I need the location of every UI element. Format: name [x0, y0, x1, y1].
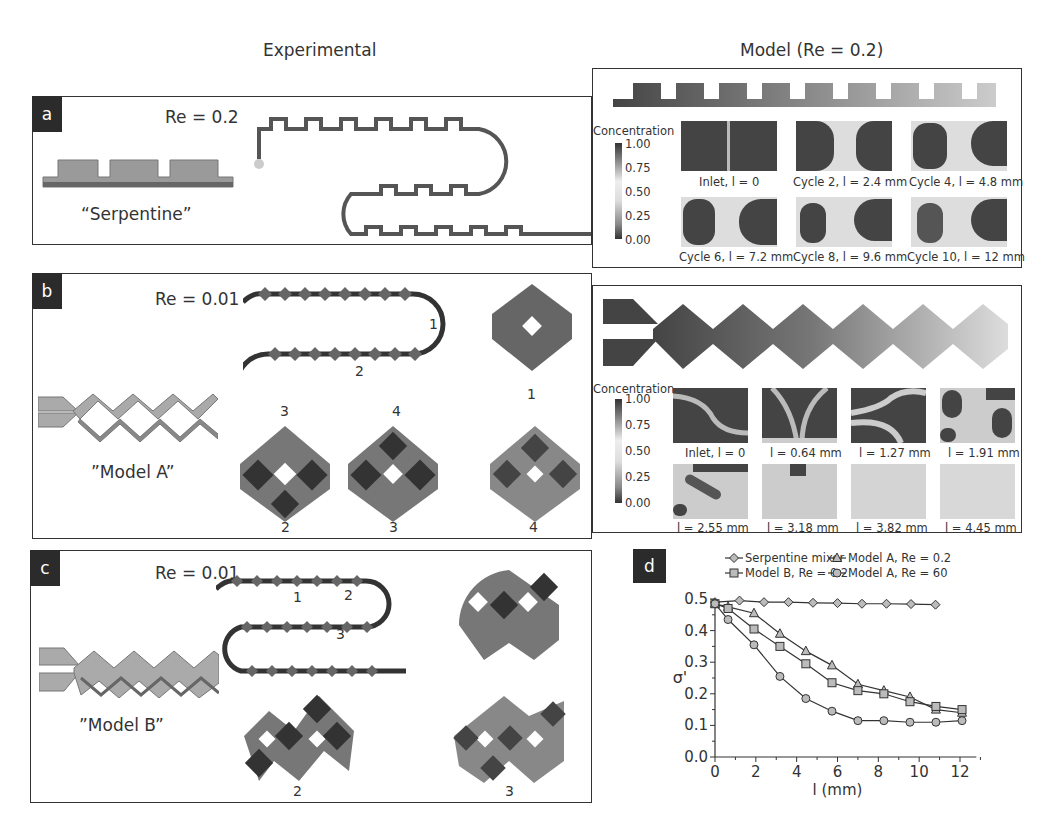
channel-mark: 1 [429, 316, 438, 332]
svg-text:10: 10 [910, 763, 929, 781]
colorbar-tick: 0.00 [625, 496, 651, 510]
channel-mark: 3 [280, 403, 289, 419]
chart-legend: Serpentine mixerModel A, Re = 0.2Model B… [725, 551, 951, 580]
concentration-thumbnail [673, 388, 748, 443]
cross-section-label: 1 [527, 386, 536, 402]
concentration-thumbnail [940, 388, 1015, 443]
thumbnail-caption: l = 0.64 mm [770, 446, 842, 460]
thumbnail-caption: l = 1.27 mm [859, 446, 931, 460]
cross-section-label: 2 [293, 783, 302, 799]
cross-section-label: 4 [529, 519, 538, 535]
concentration-thumbnail [681, 197, 777, 247]
colorbar-tick: 0.25 [625, 209, 651, 223]
panel-c-experimental: c Re = 0.01 ”Model B” 1 2 3 2 [30, 550, 592, 803]
thumbnail-caption: Cycle 8, l = 9.6 mm [793, 250, 907, 264]
panel-b-model-name: ”Model A” [91, 462, 175, 482]
cross-section-label: 3 [505, 783, 514, 799]
chart-axes: 0246810120.00.10.20.30.40.5l (mm)σ' [673, 590, 981, 799]
thumbnail-caption: Cycle 10, l = 12 mm [907, 250, 1025, 264]
channel-mark: 3 [336, 626, 345, 642]
thumbnail-caption: Inlet, l = 0 [699, 175, 759, 189]
colorbar-tick: 0.50 [625, 185, 651, 199]
model-a-colorbar-title: Concentration [593, 124, 674, 138]
svg-text:6: 6 [833, 763, 843, 781]
sigma-vs-length-chart: Serpentine mixerModel A, Re = 0.2Model B… [660, 540, 1000, 820]
svg-text:8: 8 [874, 763, 884, 781]
model-a-3d-schematic [38, 389, 218, 444]
panel-a-reynolds: Re = 0.2 [165, 107, 239, 127]
panel-a-model: Concentration 1.00 0.75 0.50 0.25 0.00 I… [592, 68, 1022, 268]
thumbnail-caption: l = 2.55 mm [677, 521, 749, 535]
svg-text:0.1: 0.1 [684, 716, 708, 734]
channel-mark: 2 [355, 363, 364, 379]
colorbar-tick: 0.25 [625, 470, 651, 484]
thumbnail-caption: Cycle 2, l = 2.4 mm [793, 175, 907, 189]
svg-text:4: 4 [792, 763, 802, 781]
thumbnail-caption: l = 3.18 mm [767, 521, 839, 535]
concentration-thumbnail [851, 388, 926, 443]
panel-c-label: c [30, 550, 60, 586]
svg-text:0: 0 [710, 763, 720, 781]
panel-a-experimental: a Re = 0.2 “Serpentine” [32, 96, 592, 245]
concentration-thumbnail [673, 464, 748, 519]
thumbnail-caption: l = 3.82 mm [856, 521, 928, 535]
concentration-thumbnail [681, 121, 777, 171]
channel-mark: 4 [392, 403, 401, 419]
thumbnail-caption: Cycle 6, l = 7.2 mm [679, 250, 793, 264]
svg-text:0.5: 0.5 [684, 590, 708, 608]
colorbar-tick: 0.00 [625, 233, 651, 247]
model-a-colorbar [615, 143, 622, 239]
cross-section-image [235, 424, 335, 524]
panel-c-model-name: ”Model B” [79, 715, 164, 735]
svg-text:12: 12 [950, 763, 969, 781]
thumbnail-caption: l = 4.45 mm [945, 521, 1017, 535]
svg-text:Model A, Re = 60: Model A, Re = 60 [848, 566, 948, 580]
channel-mark: 1 [293, 589, 302, 605]
thumbnail-caption: l = 1.91 mm [948, 446, 1020, 460]
cross-section-image [449, 691, 569, 791]
model-b-channel-image [216, 569, 406, 679]
svg-text:σ': σ' [673, 668, 688, 687]
chart-series [711, 596, 967, 726]
model-a-concentration-image [603, 294, 1013, 374]
panel-a-label: a [32, 96, 62, 132]
svg-text:0.0: 0.0 [684, 748, 708, 766]
thumbnail-caption: Cycle 4, l = 4.8 mm [909, 175, 1023, 189]
panel-a-model-name: “Serpentine” [81, 204, 192, 224]
svg-text:l (mm): l (mm) [813, 781, 863, 799]
concentration-thumbnail [762, 464, 837, 519]
serpentine-3d-schematic [38, 152, 238, 192]
colorbar-tick: 0.50 [625, 444, 651, 458]
concentration-thumbnail [911, 197, 1007, 247]
colorbar-tick: 0.75 [625, 418, 651, 432]
cross-section-label: 2 [281, 519, 290, 535]
concentration-thumbnail [940, 464, 1015, 519]
cross-section-image [487, 279, 577, 374]
concentration-thumbnail [796, 197, 892, 247]
svg-text:0.4: 0.4 [684, 622, 708, 640]
panel-b-model: Concentration 1.00 0.75 0.50 0.25 0.00 I… [592, 285, 1022, 533]
cross-section-image [343, 424, 443, 524]
experimental-column-title: Experimental [263, 40, 376, 60]
panel-b-experimental: b Re = 0.01 ”Model A” 1 2 3 4 1 2 3 [32, 273, 592, 539]
svg-text:0.2: 0.2 [684, 685, 708, 703]
model-b-colorbar [615, 399, 622, 503]
svg-text:Model A, Re = 0.2: Model A, Re = 0.2 [848, 551, 951, 565]
panel-b-reynolds: Re = 0.01 [155, 289, 239, 309]
concentration-thumbnail [762, 388, 837, 443]
cross-section-image [485, 424, 585, 524]
svg-text:2: 2 [751, 763, 761, 781]
cross-section-image [449, 565, 569, 665]
panel-b-label: b [32, 273, 62, 309]
model-b-3d-schematic [39, 643, 219, 698]
model-column-title: Model (Re = 0.2) [740, 40, 883, 60]
concentration-thumbnail [796, 121, 892, 171]
cross-section-label: 3 [389, 519, 398, 535]
colorbar-tick: 1.00 [625, 392, 651, 406]
serpentine-channel-image [251, 109, 591, 239]
thumbnail-caption: Inlet, l = 0 [685, 446, 745, 460]
cross-section-image [239, 691, 359, 791]
concentration-thumbnail [851, 464, 926, 519]
channel-mark: 2 [344, 587, 353, 603]
concentration-thumbnail [911, 121, 1007, 171]
